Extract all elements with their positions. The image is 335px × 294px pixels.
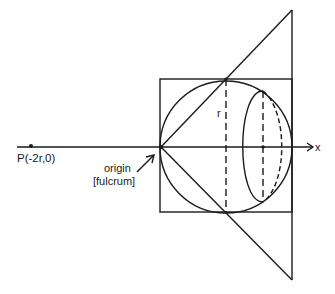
top-tangent-point <box>224 77 227 80</box>
cone-lower-line <box>161 147 292 280</box>
point-p <box>29 144 33 148</box>
origin-label: origin <box>104 162 131 174</box>
diagram-canvas: P(-2r,0) origin [fulcrum] r x <box>0 0 335 294</box>
origin-arrow <box>137 156 153 172</box>
section-center-point <box>261 145 265 149</box>
x-axis-label: x <box>315 141 321 153</box>
point-p-label: P(-2r,0) <box>17 152 56 164</box>
fulcrum-label: [fulcrum] <box>93 175 135 187</box>
origin-point <box>159 145 163 149</box>
radius-label: r <box>217 107 221 119</box>
